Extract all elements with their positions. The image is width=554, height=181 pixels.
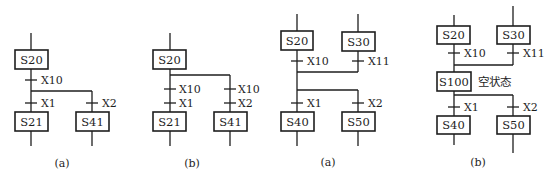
transition-label: X2 [368,97,383,110]
transition-label: X10 [464,47,486,60]
figure-2-selective-branch-split: S20 X10 X1 X10 X2 S21 S41 (b) [153,33,260,170]
transition-label: X1 [307,97,322,110]
transition-label: X1 [464,101,479,114]
step-label: S41 [81,115,104,129]
transition-label: X10 [307,55,329,68]
transition-label: X10 [41,74,63,87]
step-label: S30 [347,35,370,49]
sfc-diagrams: S20 X10 X1 X2 S21 S41 (a) S20 X10 X1 X10… [0,0,554,181]
transition-label: X2 [238,97,253,110]
step-label: S20 [20,53,43,67]
figure-caption: (a) [54,157,69,170]
transition-label: X10 [179,83,201,96]
figure-1-selective-branch: S20 X10 X1 X2 S21 S41 (a) [15,33,117,170]
step-label: S100 [439,75,469,89]
step-label: S21 [20,115,43,129]
transition-label: X1 [179,97,194,110]
figure-4-dummy-state: S20 S30 X10 X11 S100 空状态 X1 X2 S40 S50 (… [437,6,545,169]
step-label: S40 [286,115,309,129]
figure-caption: (a) [320,156,335,169]
step-label: S21 [158,115,181,129]
step-label: S30 [502,28,525,42]
step-label: S20 [158,53,181,67]
step-label: S20 [286,34,309,48]
step-label: S50 [347,115,370,129]
transition-label: X11 [368,55,390,68]
transition-label: X1 [41,97,56,110]
step-label: S20 [442,28,465,42]
step-label: S50 [502,118,525,132]
dummy-state-label: 空状态 [478,75,512,89]
figure-caption: (b) [470,156,486,169]
transition-label: X10 [238,83,260,96]
transition-label: X11 [523,47,545,60]
step-label: S40 [442,118,465,132]
figure-3-merge-then-branch: S20 S30 X10 X11 X1 X2 S40 S50 (a) [281,14,390,169]
transition-label: X2 [523,101,538,114]
transition-label: X2 [102,97,117,110]
step-label: S41 [219,115,242,129]
figure-caption: (b) [184,157,200,170]
